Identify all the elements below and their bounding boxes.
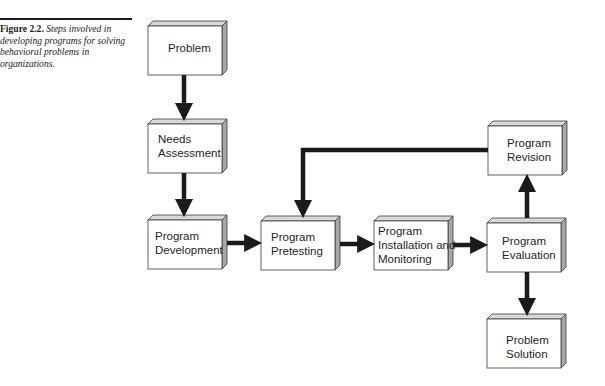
label-program-installation: Program Installation and Monitoring [378, 224, 455, 266]
label-problem: Problem [168, 41, 211, 55]
flow-diagram [0, 0, 605, 386]
label-program-development: Program Development [155, 229, 223, 257]
label-program-evaluation: Program Evaluation [502, 234, 556, 262]
label-program-revision: Program Revision [507, 136, 551, 164]
label-problem-solution: Problem Solution [506, 333, 549, 361]
arrow-revision-to-pretesting [303, 150, 488, 210]
label-program-pretesting: Program Pretesting [271, 230, 323, 258]
label-needs-assessment: Needs Assessment [158, 132, 221, 160]
